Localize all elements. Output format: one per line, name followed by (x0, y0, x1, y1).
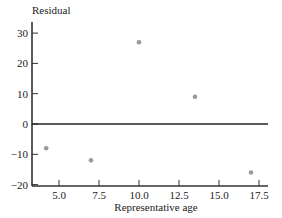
data-point (89, 158, 94, 163)
x-tick-label: 17.5 (249, 189, 269, 201)
y-tick-label: 0 (23, 118, 29, 130)
y-tick-label: 20 (17, 57, 29, 69)
y-tick-label: 10 (17, 88, 29, 100)
y-tick-label: −10 (11, 148, 29, 160)
data-points (44, 40, 253, 175)
x-tick-label: 5.0 (52, 189, 66, 201)
x-axis: 5.07.510.012.515.017.5 (32, 180, 269, 201)
x-tick-label: 10.0 (129, 189, 149, 201)
x-tick-label: 15.0 (209, 189, 229, 201)
x-tick-label: 7.5 (92, 189, 106, 201)
data-point (249, 170, 254, 175)
y-tick-label: −20 (11, 179, 29, 191)
x-tick-label: 12.5 (169, 189, 189, 201)
y-axis: 3020100−10−20 (11, 22, 38, 191)
data-point (137, 40, 142, 45)
y-tick-label: 30 (17, 27, 29, 39)
residual-plot: Residual 3020100−10−20 5.07.510.012.515.… (0, 0, 282, 218)
y-axis-title: Residual (32, 4, 71, 16)
x-axis-title: Representative age (114, 201, 197, 213)
data-point (44, 146, 49, 151)
data-point (193, 94, 198, 99)
